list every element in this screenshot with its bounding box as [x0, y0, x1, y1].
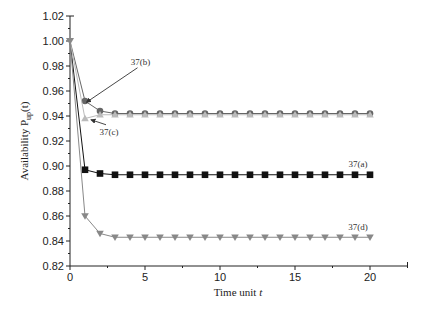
square-marker: [307, 171, 314, 178]
series-37d: [70, 41, 374, 241]
series-line: [70, 41, 370, 175]
x-axis-title: Time unit t: [214, 286, 263, 298]
square-marker: [337, 171, 344, 178]
x-tick-label: 15: [289, 271, 301, 283]
y-tick-label: 0.84: [43, 235, 64, 247]
y-tick-label: 0.86: [43, 210, 64, 222]
circle-marker: [82, 98, 89, 105]
square-marker: [172, 171, 179, 178]
annotation-arrow: [87, 68, 138, 103]
y-tick-label: 1.00: [43, 35, 64, 47]
square-marker: [142, 171, 149, 178]
square-marker: [247, 171, 254, 178]
x-tick-label: 20: [364, 271, 376, 283]
square-marker: [202, 171, 209, 178]
series-37c: [70, 41, 374, 121]
y-tick-label: 0.90: [43, 160, 64, 172]
x-tick-label: 0: [67, 271, 73, 283]
series-line: [70, 41, 370, 237]
x-tick-label: 5: [142, 271, 148, 283]
y-tick-label: 0.88: [43, 185, 64, 197]
square-marker: [367, 171, 374, 178]
annotations: 37(a)37(b)37(c)37(d): [87, 57, 368, 232]
axes: 0.820.840.860.880.900.920.940.960.981.00…: [43, 10, 408, 283]
y-tick-label: 0.98: [43, 60, 64, 72]
y-tick-label: 0.96: [43, 85, 64, 97]
y-tick-label: 0.92: [43, 135, 64, 147]
y-axis-title: Availability Pup(t): [18, 101, 33, 180]
square-marker: [292, 171, 299, 178]
annotation-label: 37(c): [100, 127, 119, 137]
annotation-arrow: [91, 120, 106, 125]
square-marker: [262, 171, 269, 178]
square-marker: [112, 171, 119, 178]
y-tick-label: 1.02: [43, 10, 64, 22]
availability-chart: 0.820.840.860.880.900.920.940.960.981.00…: [0, 0, 426, 309]
square-marker: [352, 171, 359, 178]
y-tick-label: 0.94: [43, 110, 64, 122]
square-marker: [217, 171, 224, 178]
square-marker: [97, 170, 104, 177]
series-line: [70, 41, 370, 119]
series-37a: [70, 41, 373, 178]
square-marker: [82, 166, 89, 173]
annotation-label: 37(b): [131, 57, 151, 67]
annotation-label: 37(a): [349, 159, 368, 169]
square-marker: [157, 171, 164, 178]
square-marker: [232, 171, 239, 178]
series-37b: [70, 41, 373, 117]
square-marker: [322, 171, 329, 178]
annotation-label: 37(d): [348, 222, 368, 232]
series-line: [70, 41, 370, 114]
y-tick-label: 0.82: [43, 260, 64, 272]
x-tick-label: 10: [214, 271, 226, 283]
square-marker: [127, 171, 134, 178]
square-marker: [277, 171, 284, 178]
series-group: [66, 38, 374, 241]
square-marker: [187, 171, 194, 178]
